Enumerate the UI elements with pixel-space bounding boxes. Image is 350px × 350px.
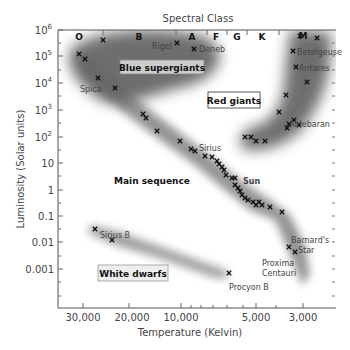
svg-text:10,000: 10,000 [164,312,199,323]
y-axis-title: Luminosity (Solar units) [15,110,26,229]
label-proxima-2: Centauri [262,269,296,278]
label-spica: Spica [80,85,102,94]
chart-title: Spectral Class [163,13,234,24]
x-axis-title: Temperature (Kelvin) [137,327,242,338]
region-label-main-sequence: Main sequence [114,176,190,186]
label-procyon-b: Procyon B [229,283,269,292]
svg-text:103: 103 [35,103,52,116]
svg-text:106: 106 [35,23,53,36]
label-sirius: Sirius [199,144,221,153]
svg-text:102: 102 [35,130,52,143]
label-barnards-1: Barnard's [291,236,329,245]
svg-text:0.001: 0.001 [25,264,54,275]
class-label-a: A [189,32,196,42]
region-label-blue-supergiants: Blue supergiants [119,60,205,74]
label-sun: Sun [243,177,260,186]
region-label-red-giants: Red giants [207,92,261,108]
label-aldebaran: Aldebaran [289,120,330,129]
svg-text:White dwarfs: White dwarfs [99,269,167,279]
label-rigel: Rigel [152,42,172,51]
svg-text:5,000: 5,000 [242,312,271,323]
label-antares: Antares [299,64,330,73]
star-marker-icon [227,271,231,275]
label-proxima-1: Proxima [262,259,294,268]
class-label-g: G [233,32,240,42]
label-sirius-b: Sirius B [100,231,130,240]
svg-text:Blue supergiants: Blue supergiants [119,63,205,73]
label-deneb: Deneb [199,45,225,54]
x-tick-labels: 30,000 20,000 10,000 5,000 3,000 [66,312,318,323]
svg-text:3,000: 3,000 [289,312,318,323]
svg-text:10: 10 [41,158,54,169]
class-label-k: K [259,32,267,42]
hr-diagram: O B A F G K M Spectral Class Temperature… [0,0,350,350]
y-tick-labels: 106 105 104 103 102 10 1 0.1 0.01 0.001 [25,23,54,275]
class-label-b: B [136,32,143,42]
svg-text:30,000: 30,000 [66,312,101,323]
svg-text:105: 105 [35,49,52,62]
y-ticks [58,30,63,296]
label-betelgeuse: Betelgeuse [297,48,342,57]
svg-text:1: 1 [48,185,54,196]
svg-text:0.1: 0.1 [38,211,54,222]
x-ticks [83,303,303,308]
svg-text:104: 104 [35,76,53,89]
class-label-o: O [75,32,83,42]
svg-text:Red giants: Red giants [207,96,261,106]
class-label-f: F [213,32,219,42]
right-ticks [332,43,335,296]
svg-text:0.01: 0.01 [32,237,54,248]
region-label-white-dwarfs: White dwarfs [98,265,168,281]
label-barnards-2: Star [298,246,315,255]
svg-text:20,000: 20,000 [115,312,150,323]
